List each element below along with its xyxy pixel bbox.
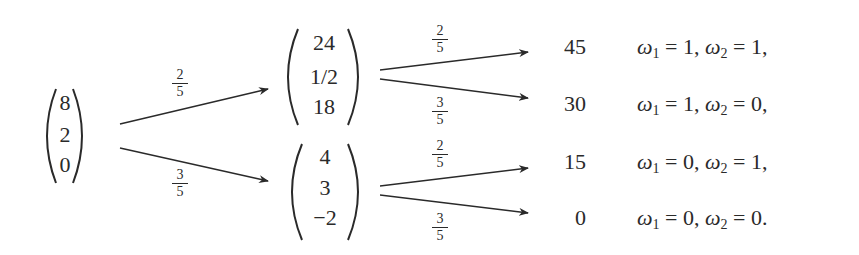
upper-entry-2: 1/2 bbox=[296, 66, 352, 88]
outcome-value-4: 0 bbox=[546, 207, 586, 229]
outcome-value-2: 30 bbox=[546, 93, 586, 115]
upper-entry-3: 18 bbox=[296, 96, 352, 118]
outcome-value-3: 15 bbox=[546, 151, 586, 173]
prob-root-lower: 3 5 bbox=[172, 168, 188, 199]
prob-lower-2: 3 5 bbox=[432, 212, 448, 243]
prob-lower-1: 2 5 bbox=[432, 139, 448, 170]
prob-upper-1: 2 5 bbox=[432, 24, 448, 55]
outcome-condition-4: ω1 = 0, ω2 = 0. bbox=[637, 207, 767, 229]
upper-vector: 24 1/2 18 bbox=[296, 32, 352, 124]
outcome-condition-3: ω1 = 0, ω2 = 1, bbox=[637, 151, 767, 173]
root-entry-2: 2 bbox=[52, 124, 78, 146]
upper-entry-1: 24 bbox=[296, 32, 352, 54]
root-entry-3: 0 bbox=[52, 154, 78, 176]
edge-upper-1 bbox=[380, 52, 528, 70]
edge-root-upper bbox=[120, 89, 268, 124]
prob-upper-2: 3 5 bbox=[432, 96, 448, 127]
lower-entry-3: −2 bbox=[298, 207, 352, 229]
root-entry-1: 8 bbox=[52, 92, 78, 114]
edge-lower-1 bbox=[380, 168, 528, 186]
edge-lower-2 bbox=[380, 195, 528, 213]
edge-upper-2 bbox=[380, 79, 528, 98]
prob-root-upper: 2 5 bbox=[172, 68, 188, 99]
lower-entry-1: 4 bbox=[298, 146, 352, 168]
edge-root-lower bbox=[120, 148, 268, 181]
lower-vector: 4 3 −2 bbox=[298, 146, 352, 238]
outcome-condition-2: ω1 = 1, ω2 = 0, bbox=[637, 93, 767, 115]
lower-entry-2: 3 bbox=[298, 177, 352, 199]
outcome-condition-1: ω1 = 1, ω2 = 1, bbox=[637, 36, 767, 58]
outcome-value-1: 45 bbox=[546, 36, 586, 58]
root-vector: 8 2 0 bbox=[52, 92, 78, 182]
